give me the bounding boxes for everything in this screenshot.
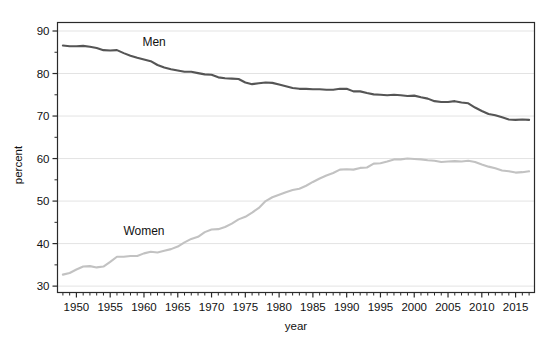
- x-tick-label: 1990: [334, 301, 360, 313]
- x-axis-ticks: [63, 293, 529, 298]
- line-chart: 30405060708090 1950195519601965197019751…: [0, 0, 555, 337]
- y-axis-tick-labels: 30405060708090: [37, 25, 50, 292]
- x-tick-label: 2005: [435, 301, 461, 313]
- x-tick-label: 2000: [401, 301, 427, 313]
- series-label-women: Women: [123, 224, 164, 238]
- data-series: [63, 45, 529, 274]
- chart-figure: 30405060708090 1950195519601965197019751…: [0, 0, 555, 337]
- x-tick-label: 2015: [503, 301, 529, 313]
- x-tick-label: 2010: [469, 301, 495, 313]
- x-tick-label: 1975: [233, 301, 259, 313]
- x-tick-label: 1960: [131, 301, 157, 313]
- plot-border: [58, 23, 535, 293]
- series-label-men: Men: [142, 35, 165, 49]
- series-line-women: [63, 159, 529, 275]
- x-tick-label: 1995: [368, 301, 394, 313]
- plot-frame: [58, 23, 535, 293]
- x-tick-label: 1965: [165, 301, 191, 313]
- y-tick-label: 60: [37, 153, 50, 165]
- x-axis-title: year: [285, 320, 308, 332]
- x-tick-label: 1950: [64, 301, 90, 313]
- y-tick-label: 30: [37, 280, 50, 292]
- x-axis-tick-labels: 1950195519601965197019751980198519901995…: [64, 301, 529, 313]
- y-axis-ticks: [53, 31, 58, 286]
- x-tick-label: 1970: [199, 301, 225, 313]
- x-tick-label: 1980: [266, 301, 292, 313]
- y-tick-label: 50: [37, 195, 50, 207]
- x-tick-label: 1985: [300, 301, 326, 313]
- y-tick-label: 80: [37, 68, 50, 80]
- y-tick-label: 90: [37, 25, 50, 37]
- y-axis-title: percent: [12, 145, 24, 184]
- y-tick-label: 70: [37, 110, 50, 122]
- y-tick-label: 40: [37, 238, 50, 250]
- x-tick-label: 1955: [97, 301, 123, 313]
- plot-gridlines: [58, 31, 535, 286]
- series-line-men: [63, 45, 529, 119]
